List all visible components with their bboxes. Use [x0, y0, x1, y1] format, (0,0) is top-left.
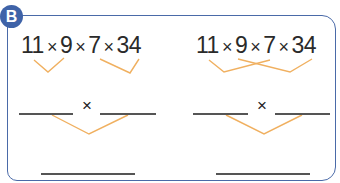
answer-blank[interactable]: [216, 173, 310, 175]
answer-blank[interactable]: [100, 113, 156, 115]
answer-blank[interactable]: [193, 113, 248, 115]
times-sign: ×: [82, 96, 92, 116]
times-sign: ×: [257, 96, 267, 116]
grouping-brackets: [0, 0, 340, 183]
answer-blank[interactable]: [275, 113, 330, 115]
answer-blank[interactable]: [19, 113, 73, 115]
answer-blank[interactable]: [41, 173, 135, 175]
